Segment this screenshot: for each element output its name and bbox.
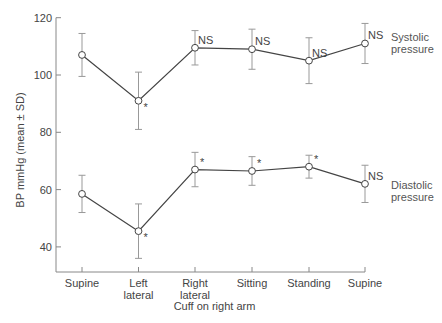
ns-marker: NS	[368, 29, 383, 41]
diastolic-label: Diastolic	[391, 179, 433, 191]
x-tick-label: Sitting	[237, 277, 268, 289]
ns-marker: NS	[312, 47, 327, 59]
significance-marker: *	[144, 231, 149, 243]
ns-marker: NS	[198, 34, 213, 46]
diastolic-series: ****NSDiastolicpressure	[79, 152, 434, 258]
x-tick-label: Right	[182, 277, 208, 289]
significance-marker: *	[200, 156, 205, 168]
systolic-series: *NSNSNSNSSystolicpressure	[79, 23, 434, 129]
data-point	[135, 228, 142, 235]
diastolic-label: pressure	[391, 191, 434, 203]
x-tick-label: Left	[129, 277, 147, 289]
data-point	[79, 190, 86, 197]
data-point	[79, 52, 86, 59]
x-tick-label: Supine	[348, 277, 382, 289]
axes: 406080100120SupineLeftlateralRightlatera…	[34, 12, 382, 301]
bp-line-chart: 406080100120SupineLeftlateralRightlatera…	[0, 0, 442, 323]
y-tick-label: 80	[40, 126, 52, 138]
significance-marker: *	[144, 101, 149, 113]
series-line	[82, 167, 365, 231]
significance-marker: *	[257, 157, 262, 169]
ns-marker: NS	[368, 170, 383, 182]
significance-marker: *	[314, 153, 319, 165]
x-axis-title: Cuff on right arm	[174, 300, 256, 312]
x-tick-label: Supine	[65, 277, 99, 289]
y-axis-title: BP mmHg (mean ± SD)	[14, 92, 26, 207]
x-tick-label: lateral	[124, 289, 154, 301]
series-group: *NSNSNSNSSystolicpressure****NSDiastolic…	[79, 23, 434, 258]
y-tick-label: 40	[40, 241, 52, 253]
x-tick-label: Standing	[287, 277, 330, 289]
data-point	[249, 168, 256, 175]
y-tick-label: 120	[34, 12, 52, 24]
y-tick-label: 60	[40, 184, 52, 196]
systolic-label: pressure	[391, 43, 434, 55]
systolic-label: Systolic	[391, 31, 429, 43]
data-point	[306, 163, 313, 170]
y-tick-label: 100	[34, 69, 52, 81]
ns-marker: NS	[255, 35, 270, 47]
data-point	[135, 97, 142, 104]
data-point	[192, 166, 199, 173]
